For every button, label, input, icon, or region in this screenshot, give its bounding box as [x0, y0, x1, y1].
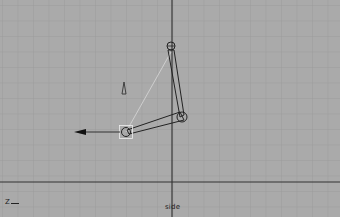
side-viewport[interactable]: Z side: [0, 0, 340, 217]
grid: [0, 0, 340, 217]
camera-label: side: [165, 203, 180, 211]
viewport-canvas[interactable]: [0, 0, 340, 217]
axis-indicator: Z: [5, 198, 19, 206]
